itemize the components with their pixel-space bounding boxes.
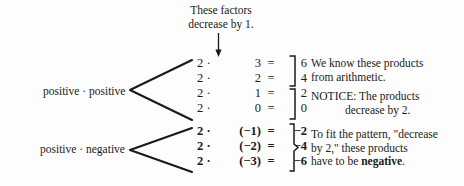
equation-right-operand: 2 [227,71,261,86]
connector-wedge-negative [128,126,194,174]
note-fit-pattern-line-3-suffix: . [402,155,405,167]
down-arrow-icon [214,33,223,57]
equation-equals-sign: = [261,124,281,139]
equation-left-operand: 2 · [197,71,227,86]
note-arithmetic: We know these products from arithmetic. [311,57,423,84]
equation-right-operand: 1 [227,86,261,101]
equation-equals-sign: = [261,139,281,154]
equation-right-operand: 3 [227,56,261,71]
equation-left-operand: 2 · [197,101,227,116]
bracket-notice [288,88,298,120]
note-arithmetic-line-2: from arithmetic. [311,71,423,85]
equation-equals-sign: = [261,86,281,101]
equation-right-operand: (−3) [227,154,261,169]
brace-negative-group [287,123,300,172]
group-label-positive-negative: positive · negative [40,143,125,156]
top-caption-line-2: decrease by 1. [156,18,286,32]
equation-equals-sign: = [261,154,281,169]
connector-wedge-positive [128,58,194,122]
note-fit-pattern-line-2: by 2," these products [311,142,438,156]
note-arithmetic-line-1: We know these products [311,57,423,71]
equation-equals-sign: = [261,56,281,71]
equation-right-operand: (−2) [227,139,261,154]
note-notice: NOTICE: The products decrease by 2. [311,90,419,117]
note-notice-line-1: NOTICE: The products [311,90,419,104]
equation-left-operand: 2 · [197,139,227,154]
group-label-positive-positive: positive · positive [43,85,125,98]
equation-right-operand: (−1) [227,124,261,139]
equation-left-operand: 2 · [197,56,227,71]
note-notice-line-2: decrease by 2. [311,104,419,118]
note-fit-pattern: To fit the pattern, "decrease by 2," the… [311,128,438,169]
note-fit-pattern-line-3: have to be negative. [311,155,438,169]
note-fit-pattern-emphasis: negative [361,155,402,167]
equation-left-operand: 2 · [197,124,227,139]
equation-left-operand: 2 · [197,86,227,101]
equation-left-operand: 2 · [197,154,227,169]
top-caption-line-1: These factors [156,4,286,18]
top-caption: These factors decrease by 1. [156,4,286,31]
note-fit-pattern-line-3-prefix: have to be [311,155,361,167]
figure-canvas: These factors decrease by 1. positive · … [0,0,464,186]
bracket-arithmetic [288,55,298,87]
note-fit-pattern-line-1: To fit the pattern, "decrease [311,128,438,142]
equation-equals-sign: = [261,101,281,116]
equation-right-operand: 0 [227,101,261,116]
equation-equals-sign: = [261,71,281,86]
